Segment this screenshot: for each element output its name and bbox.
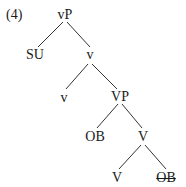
node-V-bar: V	[138, 130, 148, 144]
edge-V-OBtrace	[145, 145, 166, 169]
node-OB: OB	[85, 130, 104, 144]
node-OB-trace: OB	[156, 171, 175, 185]
edge-VP-OB	[97, 104, 118, 128]
edge-v-VP	[92, 64, 117, 89]
edge-v-vhead	[66, 64, 88, 89]
node-V-head: V	[112, 171, 122, 185]
edge-vP-v	[67, 22, 90, 47]
node-v-bar: v	[87, 48, 94, 62]
edge-VP-V	[122, 104, 142, 128]
node-VP: VP	[111, 90, 129, 104]
node-SU: SU	[26, 48, 44, 62]
node-vP: vP	[58, 8, 73, 22]
node-v-head: v	[61, 91, 68, 105]
tree-edges	[0, 0, 186, 187]
edge-vP-SU	[38, 22, 63, 47]
edge-V-Vlower	[119, 145, 141, 169]
